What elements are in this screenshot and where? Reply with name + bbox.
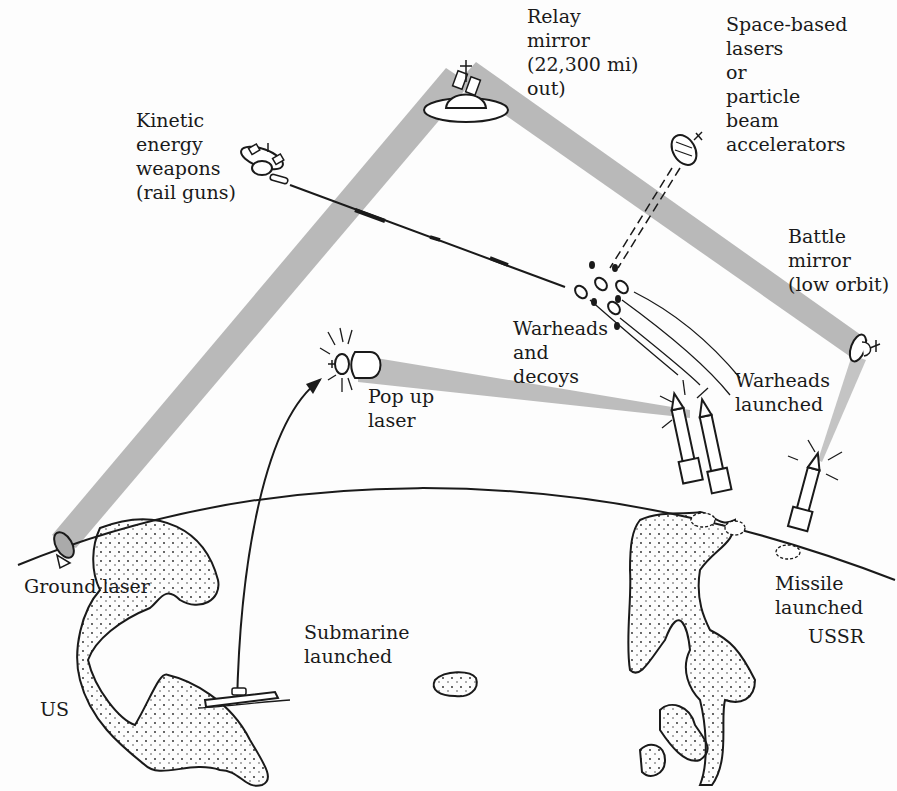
space-laser-satellite-icon	[666, 131, 702, 170]
label-pop-up-laser: Pop up laser	[368, 384, 434, 432]
label-relay-mirror: Relay mirror (22,300 mi) out)	[527, 4, 638, 100]
label-battle-mirror: Battle mirror (low orbit)	[788, 224, 889, 296]
label-space-lasers: Space-based lasers or particle beam acce…	[726, 12, 847, 156]
island	[434, 672, 477, 696]
label-ground-laser: Ground laser	[24, 574, 150, 598]
label-warheads-decoys: Warheads and decoys	[513, 316, 608, 388]
beam-ground-to-relay	[52, 68, 470, 548]
missile-1	[664, 391, 702, 483]
ussr-landmass	[628, 512, 755, 785]
label-submarine: Submarine launched	[304, 620, 409, 668]
label-kinetic-weapons: Kinetic energy weapons (rail guns)	[136, 108, 236, 204]
missile-3	[788, 451, 828, 532]
sdi-diagram: Relay mirror (22,300 mi) out) Space-base…	[0, 0, 897, 791]
label-warheads-launched: Warheads launched	[735, 368, 830, 416]
label-ussr: USSR	[808, 624, 864, 648]
kinetic-weapon-satellite-icon	[238, 142, 288, 184]
label-missile-launched: Missile launched	[775, 571, 863, 619]
label-us: US	[40, 697, 69, 721]
